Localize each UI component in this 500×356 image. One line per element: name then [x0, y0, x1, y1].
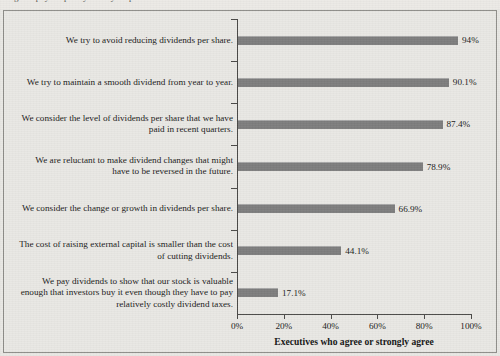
- bar-value-label: 66.9%: [399, 204, 423, 214]
- x-axis-tick: [331, 314, 332, 319]
- y-axis-tick: [231, 272, 237, 273]
- bar: [238, 204, 395, 213]
- x-axis-tick-label: 40%: [311, 321, 351, 331]
- x-axis-tick-label: 20%: [264, 321, 304, 331]
- bar: [238, 78, 449, 87]
- x-axis-tick-label: 100%: [451, 321, 491, 331]
- bar-item: 87.4%: [238, 119, 470, 129]
- x-axis-tick: [284, 314, 285, 319]
- y-axis-tick: [231, 61, 237, 62]
- bar-item: 17.1%: [238, 288, 306, 298]
- bar-value-label: 78.9%: [427, 162, 451, 172]
- y-axis-tick: [231, 103, 237, 104]
- x-axis-tick-label: 80%: [404, 321, 444, 331]
- x-axis-tick-label: 60%: [357, 321, 397, 331]
- bar-category-label: We are reluctant to make dividend change…: [18, 155, 233, 178]
- x-axis-tick-label: 0%: [217, 321, 257, 331]
- x-axis-tick: [471, 314, 472, 319]
- bar-category-label: We try to maintain a smooth dividend fro…: [18, 77, 233, 88]
- y-axis-tick: [231, 230, 237, 231]
- cut-off-caption: Figure: payout policy survey responses o…: [6, 0, 253, 2]
- bar: [238, 246, 341, 255]
- bar: [238, 36, 458, 45]
- bar-item: 90.1%: [238, 77, 477, 87]
- bar-item: 66.9%: [238, 204, 422, 214]
- bar-category-label: The cost of raising external capital is …: [18, 239, 233, 262]
- bar-value-label: 90.1%: [453, 77, 477, 87]
- bar: [238, 288, 278, 297]
- bar-category-label: We try to avoid reducing dividends per s…: [18, 35, 233, 46]
- x-axis-title: Executives who agree or strongly agree: [237, 336, 471, 347]
- bar-item: 78.9%: [238, 162, 450, 172]
- x-axis-line: [237, 314, 471, 315]
- bar-value-label: 17.1%: [282, 288, 306, 298]
- bar-category-label: We pay dividends to show that our stock …: [18, 276, 233, 310]
- bar: [238, 120, 443, 129]
- y-axis-tick: [231, 188, 237, 189]
- plot-area: We try to avoid reducing dividends per s…: [4, 11, 496, 352]
- bar-value-label: 94%: [462, 35, 479, 45]
- bar-item: 44.1%: [238, 246, 369, 256]
- x-axis-tick: [377, 314, 378, 319]
- bar-item: 94%: [238, 35, 479, 45]
- bar-category-label: We consider the level of dividends per s…: [18, 113, 233, 136]
- chart-panel: We try to avoid reducing dividends per s…: [3, 10, 497, 353]
- x-axis-tick: [237, 314, 238, 319]
- bar-value-label: 87.4%: [447, 119, 471, 129]
- x-axis-tick: [424, 314, 425, 319]
- y-axis-tick: [231, 19, 237, 20]
- bar-category-label: We consider the change or growth in divi…: [18, 203, 233, 214]
- chart-page: Figure: payout policy survey responses o…: [0, 0, 500, 356]
- bar: [238, 162, 423, 171]
- bar-value-label: 44.1%: [345, 246, 369, 256]
- y-axis-tick: [231, 145, 237, 146]
- page-top-cut-text: Figure: payout policy survey responses o…: [0, 0, 500, 9]
